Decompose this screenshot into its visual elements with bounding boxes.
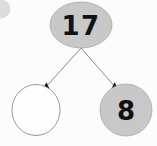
number-bond-diagram: 17 8 <box>0 0 157 146</box>
branch-left-line <box>45 48 81 88</box>
branch-right <box>81 48 121 93</box>
node-part-right[interactable]: 8 <box>100 84 152 136</box>
branch-left <box>41 48 82 93</box>
node-part-left-shape[interactable] <box>12 85 60 136</box>
node-part-right-label: 8 <box>117 96 135 126</box>
diagram-canvas: 17 8 <box>0 0 157 146</box>
node-part-left[interactable] <box>12 85 60 136</box>
branch-right-line <box>81 48 116 88</box>
corner-smudge-artifact <box>0 0 10 18</box>
node-whole[interactable]: 17 <box>50 2 112 48</box>
node-whole-label: 17 <box>61 11 100 41</box>
